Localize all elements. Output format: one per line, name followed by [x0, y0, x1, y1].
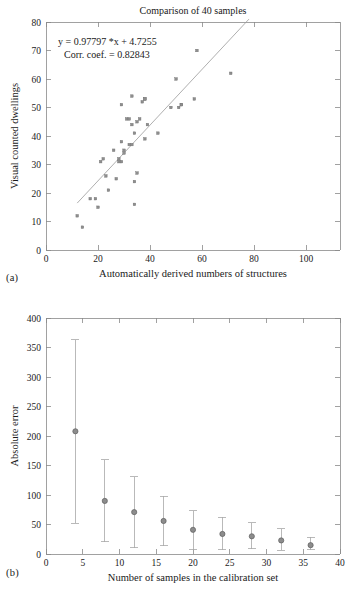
error-bar-point — [279, 538, 284, 543]
x-tick-labels-a: 0 20 40 60 80 100 — [44, 254, 314, 264]
scatter-point — [112, 149, 115, 152]
subfigure-label-b: (b) — [6, 567, 19, 578]
scatter-point — [89, 197, 92, 200]
y-tick-label: 0 — [36, 550, 41, 560]
x-tick-label: 25 — [225, 558, 235, 568]
error-bar-point — [249, 534, 254, 539]
y-tick-label: 50 — [32, 103, 42, 113]
x-tick-label: 30 — [262, 558, 272, 568]
scatter-point — [177, 106, 180, 109]
x-tick-label: 60 — [197, 254, 207, 264]
x-tick-label: 20 — [188, 558, 198, 568]
scatter-point — [105, 175, 108, 178]
scatter-point — [193, 98, 196, 101]
error-bar-point — [102, 498, 107, 503]
y-tick-labels-a: 0 10 20 30 40 50 60 70 80 — [32, 18, 42, 256]
correlation-coefficient-annotation: Corr. coef. = 0.82843 — [64, 49, 150, 60]
scatter-point — [118, 160, 121, 163]
scatter-point — [229, 72, 232, 75]
y-tick-label: 350 — [27, 343, 42, 353]
scatter-point — [94, 197, 97, 200]
chart-panel-b: 0510152025303540 05010015020025030035040… — [0, 296, 353, 593]
error-bar-point — [190, 527, 195, 532]
x-tick-label: 15 — [152, 558, 162, 568]
error-bar-point — [220, 531, 225, 536]
y-tick-label: 80 — [32, 18, 42, 28]
errorbar-plot-svg: 0510152025303540 05010015020025030035040… — [0, 296, 353, 593]
scatter-point — [144, 98, 147, 101]
scatter-point — [133, 203, 136, 206]
x-tick-label: 40 — [145, 254, 155, 264]
y-tick-labels-b: 050100150200250300350400 — [27, 314, 42, 560]
y-tick-label: 60 — [32, 75, 42, 85]
scatter-point — [120, 140, 123, 143]
scatter-point — [131, 123, 134, 126]
scatter-point — [138, 118, 141, 121]
y-tick-label: 40 — [32, 132, 42, 142]
y-tick-label: 400 — [27, 314, 42, 324]
y-tick-label: 10 — [32, 217, 42, 227]
scatter-point — [76, 215, 79, 218]
y-tick-label: 50 — [32, 520, 42, 530]
subfigure-label-a: (a) — [6, 272, 18, 283]
scatter-point — [118, 158, 121, 161]
scatter-point — [175, 78, 178, 81]
x-tick-label: 5 — [80, 558, 85, 568]
scatter-point — [128, 118, 131, 121]
y-tick-label: 30 — [32, 160, 42, 170]
regression-equation-annotation: y = 0.97797 *x + 4.7255 — [58, 36, 157, 47]
scatter-point — [146, 123, 149, 126]
scatter-point — [123, 149, 126, 152]
scatter-point — [97, 206, 100, 209]
scatter-point — [141, 101, 144, 104]
scatter-point — [81, 226, 84, 229]
y-tick-label: 250 — [27, 402, 42, 412]
scatter-point — [180, 103, 183, 106]
scatter-points-group — [76, 49, 232, 228]
scatter-point — [99, 160, 102, 163]
scatter-point — [136, 120, 139, 123]
scatter-point — [136, 172, 139, 175]
x-tick-label: 0 — [44, 558, 49, 568]
x-tick-labels-b: 0510152025303540 — [44, 558, 345, 568]
scatter-point — [133, 180, 136, 183]
x-tick-label: 10 — [115, 558, 125, 568]
scatter-point — [123, 152, 126, 155]
y-tick-label: 0 — [36, 246, 41, 256]
y-tick-label: 20 — [32, 189, 42, 199]
scatter-point — [120, 103, 123, 106]
scatter-point — [128, 143, 131, 146]
y-tick-label: 100 — [27, 491, 42, 501]
scatter-point — [133, 132, 136, 135]
error-bar-point — [73, 429, 78, 434]
chart-title-a: Comparison of 40 samples — [140, 5, 247, 16]
scatter-point — [125, 118, 128, 121]
y-axis-title-a: Visual counted dwellings — [9, 83, 20, 189]
scatter-point — [131, 143, 134, 146]
x-tick-label: 100 — [299, 254, 314, 264]
chart-panel-a: 0 20 40 60 80 100 0 10 20 30 40 50 60 70… — [0, 0, 353, 296]
error-bars-group — [71, 340, 314, 551]
scatter-plot-svg: 0 20 40 60 80 100 0 10 20 30 40 50 60 70… — [0, 0, 353, 296]
scatter-point — [144, 138, 147, 141]
y-tick-label: 70 — [32, 46, 42, 56]
x-tick-label: 20 — [93, 254, 103, 264]
x-tick-label: 40 — [335, 558, 345, 568]
scatter-point — [102, 158, 105, 161]
scatter-point — [157, 132, 160, 135]
scatter-point — [115, 177, 118, 180]
x-tick-label: 0 — [44, 254, 49, 264]
error-bar-point — [308, 543, 313, 548]
y-tick-label: 200 — [27, 432, 42, 442]
x-tick-label: 35 — [299, 558, 309, 568]
scatter-point — [120, 160, 123, 163]
error-bar-point — [132, 510, 137, 515]
figure-container: 0 20 40 60 80 100 0 10 20 30 40 50 60 70… — [0, 0, 353, 593]
scatter-point — [170, 106, 173, 109]
y-tick-label: 150 — [27, 461, 42, 471]
y-tick-label: 300 — [27, 373, 42, 383]
scatter-point — [196, 49, 199, 52]
error-bar-point — [161, 518, 166, 523]
scatter-point — [107, 189, 110, 192]
x-tick-label: 80 — [249, 254, 259, 264]
